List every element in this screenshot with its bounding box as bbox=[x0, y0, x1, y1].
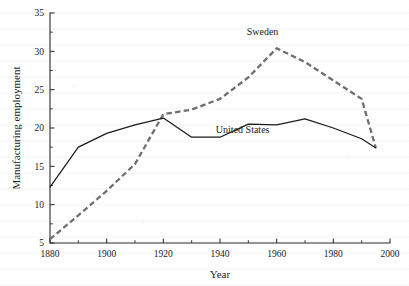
x-tick-label: 1880 bbox=[41, 249, 60, 259]
x-tick-label: 1900 bbox=[97, 249, 116, 259]
series-label-sweden: Sweden bbox=[247, 26, 279, 37]
data-series-group bbox=[50, 48, 376, 239]
y-axis-tick-labels: 5101520253035 bbox=[35, 8, 45, 248]
y-tick-label: 10 bbox=[35, 200, 45, 210]
x-tick-label: 1960 bbox=[267, 249, 286, 259]
x-axis-title: Year bbox=[210, 268, 231, 280]
y-tick-label: 20 bbox=[35, 123, 45, 133]
y-tick-label: 35 bbox=[35, 8, 45, 18]
x-axis-ticks bbox=[50, 239, 390, 244]
x-tick-label: 2000 bbox=[381, 249, 400, 259]
x-tick-label: 1920 bbox=[154, 249, 173, 259]
line-chart-plot: 5101520253035 18801900192019401960198020… bbox=[0, 0, 409, 286]
y-axis-ticks bbox=[50, 13, 55, 243]
x-axis-tick-labels: 1880190019201940196019802000 bbox=[41, 249, 400, 259]
x-tick-label: 1940 bbox=[211, 249, 230, 259]
series-line-united-states bbox=[50, 118, 376, 187]
y-tick-label: 5 bbox=[39, 238, 44, 248]
y-axis-title: Manufacturing employment bbox=[10, 66, 22, 189]
series-annotations: Sweden United States bbox=[216, 26, 278, 135]
series-label-united-states: United States bbox=[216, 124, 270, 135]
y-tick-label: 15 bbox=[35, 162, 45, 172]
chart-figure: 5101520253035 18801900192019401960198020… bbox=[0, 0, 409, 286]
series-line-sweden bbox=[50, 48, 376, 239]
x-tick-label: 1980 bbox=[324, 249, 343, 259]
y-tick-label: 25 bbox=[35, 85, 45, 95]
y-tick-label: 30 bbox=[35, 47, 45, 57]
